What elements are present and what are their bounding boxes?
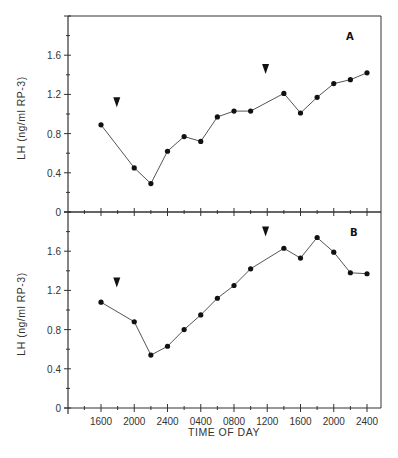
panel-letter: B	[350, 227, 358, 238]
data-point	[182, 134, 187, 139]
lh-series-line	[101, 238, 367, 356]
data-point	[248, 266, 253, 271]
x-tick-label: 2400	[356, 416, 379, 427]
x-tick-label: 2000	[323, 416, 346, 427]
data-point	[281, 91, 286, 96]
data-point	[132, 165, 137, 170]
y-axis-title: LH (ng/ml RP-3)	[15, 272, 27, 355]
data-point	[298, 110, 303, 115]
arrowhead-marker-icon	[113, 278, 120, 288]
y-tick-label: 1.2	[47, 89, 61, 100]
data-point	[148, 352, 153, 357]
y-tick-label: 0.4	[47, 168, 61, 179]
data-point	[315, 235, 320, 240]
data-point	[281, 246, 286, 251]
data-point	[331, 81, 336, 86]
x-tick-label: 1600	[289, 416, 312, 427]
y-tick-label: 0.8	[47, 129, 61, 140]
data-point	[215, 114, 220, 119]
y-tick-label: 1.6	[47, 50, 61, 61]
data-point	[248, 108, 253, 113]
panel-a: 00.40.81.21.6LH (ng/ml RP-3)A	[15, 16, 381, 218]
lh-series-line	[101, 73, 367, 184]
x-tick-label: 2000	[123, 416, 146, 427]
data-point	[315, 95, 320, 100]
data-point	[182, 327, 187, 332]
data-point	[298, 255, 303, 260]
y-tick-label: 0	[55, 207, 61, 218]
y-tick-label: 0.4	[47, 364, 61, 375]
y-tick-label: 1.6	[47, 246, 61, 257]
data-point	[98, 300, 103, 305]
arrowhead-marker-icon	[262, 64, 269, 74]
y-tick-label: 0	[55, 403, 61, 414]
data-point	[348, 270, 353, 275]
data-point	[231, 283, 236, 288]
data-point	[132, 319, 137, 324]
data-point	[215, 296, 220, 301]
lh-time-of-day-figure: 00.40.81.21.6LH (ng/ml RP-3)A 00.40.81.2…	[0, 0, 398, 458]
arrowhead-marker-icon	[262, 227, 269, 237]
data-point	[165, 344, 170, 349]
data-point	[148, 181, 153, 186]
x-tick-label: 1600	[90, 416, 113, 427]
data-point	[364, 271, 369, 276]
panel-b: 00.40.81.21.6LH (ng/ml RP-3)160020002400…	[15, 212, 381, 427]
data-point	[165, 149, 170, 154]
x-tick-label: 2400	[156, 416, 179, 427]
panel-letter: A	[346, 31, 354, 42]
data-point	[231, 108, 236, 113]
x-axis-title: TIME OF DAY	[188, 426, 260, 438]
data-point	[331, 250, 336, 255]
y-axis-title: LH (ng/ml RP-3)	[15, 76, 27, 159]
data-point	[198, 312, 203, 317]
data-point	[98, 122, 103, 127]
y-tick-label: 0.8	[47, 325, 61, 336]
arrowhead-marker-icon	[113, 97, 120, 107]
data-point	[364, 70, 369, 75]
data-point	[198, 139, 203, 144]
y-tick-label: 1.2	[47, 285, 61, 296]
data-point	[348, 77, 353, 82]
